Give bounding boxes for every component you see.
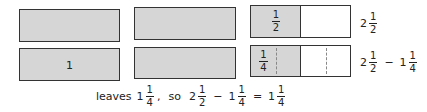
mixed-number: 1 1 4 [137, 85, 155, 108]
row2-bar-1-label: 1 [20, 58, 119, 71]
row1-whole-bar-1 [19, 9, 120, 42]
minus-sign: − [213, 90, 222, 103]
row1-whole-bar-2 [134, 7, 236, 40]
row2-empty-half [300, 46, 350, 76]
caption-prefix: leaves [96, 90, 132, 103]
mixed-number: 2 1 2 [360, 12, 378, 35]
fraction: 1 2 [272, 10, 280, 33]
row1-half-bar: 1 2 [250, 5, 351, 38]
row2-quarter-label: 1 4 [251, 46, 276, 76]
mixed-number: 1 1 4 [268, 85, 286, 108]
row1-result: 2 1 2 [360, 9, 378, 37]
equals-sign: = [253, 90, 262, 103]
caption-comma: , [157, 90, 161, 103]
quarter-divider-2 [326, 48, 327, 74]
row2-whole-bar-2 [134, 47, 236, 79]
quarter-divider-1 [276, 48, 277, 74]
mixed-number: 1 1 4 [400, 51, 418, 74]
caption: leaves 1 1 4 , so 2 1 2 − 1 1 4 = 1 1 4 [96, 84, 286, 108]
mixed-number: 2 1 2 [360, 51, 378, 74]
row1-half-label: 1 2 [251, 6, 301, 37]
row2-whole-bar-1: 1 [19, 48, 120, 81]
mixed-number: 2 1 2 [189, 85, 207, 108]
row1-empty-half [300, 6, 350, 37]
minus-sign: − [384, 56, 393, 69]
row2-result: 2 1 2 − 1 1 4 [360, 48, 418, 76]
row2-half-bar: 1 4 [250, 45, 351, 77]
caption-so: so [168, 90, 180, 103]
mixed-number: 1 1 4 [229, 85, 247, 108]
fraction: 1 4 [259, 50, 267, 73]
